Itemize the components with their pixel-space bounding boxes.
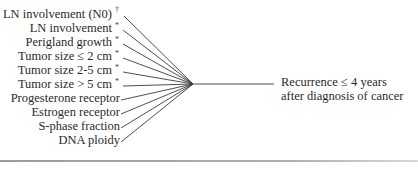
predictor-label: Tumor size > 5 cm	[18, 77, 112, 91]
predictor-label: S-phase fraction	[38, 119, 120, 133]
asterisk-mark: *	[115, 22, 119, 30]
asterisk-mark: *	[115, 36, 119, 44]
asterisk-mark: *	[115, 64, 119, 72]
asterisk-mark: *	[115, 78, 119, 86]
dagger-mark: †	[115, 6, 119, 14]
bottom-divider	[0, 160, 418, 162]
asterisk-mark: *	[115, 50, 119, 58]
predictor-label: Tumor size 2-5 cm	[18, 63, 112, 77]
predictor-label: Tumor size ≤ 2 cm	[18, 49, 112, 63]
outcome-line-2: after diagnosis of cancer	[281, 89, 404, 103]
predictor-label: Estrogen receptor	[31, 105, 120, 119]
predictor-label: LN involvement	[30, 21, 112, 35]
predictor-label: LN involvement (N0)	[3, 7, 112, 21]
predictor-label: DNA ploidy	[59, 133, 120, 147]
predictor-label: Progesterone receptor	[11, 91, 120, 105]
predictor-label: Perigland growth	[26, 35, 112, 49]
outcome-line-1: Recurrence ≤ 4 years	[281, 75, 404, 89]
outcome-node: Recurrence ≤ 4 years after diagnosis of …	[281, 75, 404, 103]
